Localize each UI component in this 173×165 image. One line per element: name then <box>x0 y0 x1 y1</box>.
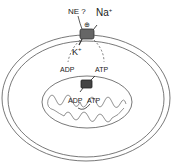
na-label: Na+ <box>96 7 113 18</box>
na-arrow <box>93 25 97 30</box>
k-label: K+ <box>72 46 82 57</box>
adp-mito-label: ADP <box>68 97 83 104</box>
k-arrow <box>79 39 82 45</box>
atp-mito-label: ATP <box>87 97 100 104</box>
cell-diagram: NE ? Na+ ⊕ K+ ADP ATP ADP ATP <box>0 0 173 165</box>
ne-arrow <box>78 16 82 29</box>
ne-label: NE ? <box>68 7 86 16</box>
adp-cytosol-label: ADP <box>60 66 75 73</box>
atp-dashed-path <box>94 40 104 62</box>
atp-cytosol-label: ATP <box>95 66 108 73</box>
na-k-pump <box>80 29 94 39</box>
translocase-arrow-in <box>80 88 83 92</box>
adp-atp-translocase <box>81 80 92 88</box>
cell-membrane-outer <box>2 35 170 161</box>
cell-membrane-inner <box>8 41 164 157</box>
stimulation-sign: ⊕ <box>84 21 90 28</box>
